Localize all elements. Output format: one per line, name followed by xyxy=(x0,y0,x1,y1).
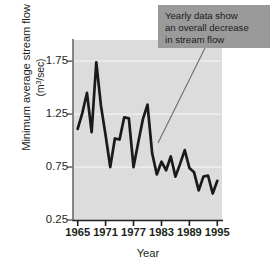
y-axis-tick-label: 0.75 xyxy=(34,160,68,172)
x-axis-tick-label: 1995 xyxy=(200,226,234,238)
callout-line-2: an overall decrease xyxy=(165,22,264,34)
callout-line-1: Yearly data show xyxy=(165,10,264,22)
callout-line-3: in stream flow xyxy=(165,34,264,46)
y-axis-tick-label: 1.25 xyxy=(34,107,68,119)
y-axis-tick-label: 1.75 xyxy=(34,54,68,66)
y-axis-tick-label: 0.25 xyxy=(34,213,68,225)
callout-box: Yearly data show an overall decrease in … xyxy=(158,5,270,48)
x-axis-title: Year xyxy=(73,247,223,259)
stream-flow-chart-figure: Minimum average stream flow (m3/sec) Yea… xyxy=(0,0,274,272)
